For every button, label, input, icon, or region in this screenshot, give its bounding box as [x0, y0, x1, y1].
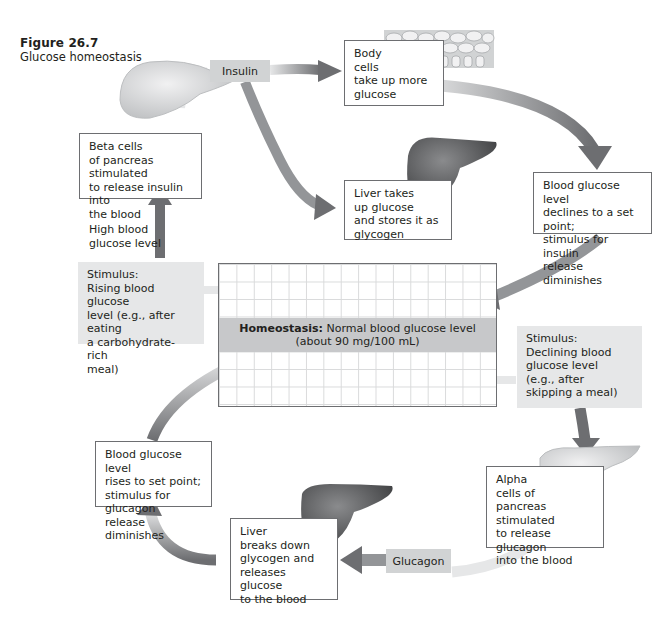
stimulus-declining-box: Stimulus: Declining blood glucose level … — [517, 326, 642, 408]
liver-releases-glucose-box: Liver breaks down glycogen and releases … — [230, 518, 338, 600]
glucagon-tag: Glucagon — [386, 549, 451, 573]
beta-cells-box: Beta cells of pancreas stimulated to rel… — [79, 133, 202, 199]
liver-stores-glycogen-box: Liver takes up glucose and stores it as … — [344, 180, 452, 240]
stimulus-rising-box: Stimulus: Rising blood glucose level (e.… — [78, 262, 204, 344]
arrow-insulin-to-liver — [245, 82, 336, 220]
homeostasis-text: Normal blood glucose level — [323, 322, 476, 335]
body-cells-box: Body cells take up more glucose — [344, 40, 444, 106]
homeostasis-detail: (about 90 mg/100 mL) — [219, 335, 496, 348]
alpha-cells-box: Alpha cells of pancreas stimulated to re… — [486, 466, 604, 548]
homeostasis-label: Homeostasis: — [239, 322, 323, 335]
homeostasis-bar: Homeostasis: Normal blood glucose level … — [219, 318, 496, 352]
insulin-result-box: Blood glucose level declines to a set po… — [533, 172, 652, 234]
arrow-insulin-to-body-cells — [270, 60, 342, 82]
arrow-glucagon-to-liver — [340, 546, 388, 574]
glucagon-result-box: Blood glucose level rises to set point; … — [95, 441, 212, 507]
insulin-tag: Insulin — [210, 60, 270, 82]
high-blood-glucose-label: High blood glucose level — [89, 223, 161, 250]
